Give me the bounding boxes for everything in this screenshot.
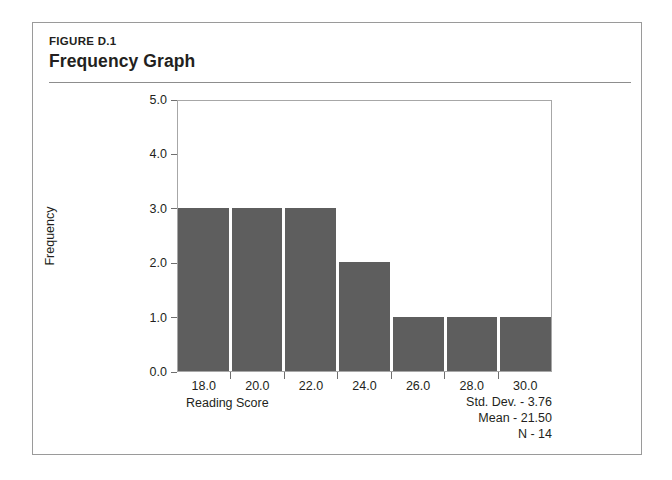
y-axis-tick-label: 4.0 (150, 147, 171, 161)
y-axis-tick-label: 0.0 (150, 365, 171, 379)
x-axis-tick-marks (177, 372, 552, 379)
bar (339, 262, 390, 371)
sample-size-value: N - 14 (466, 426, 552, 442)
y-axis-tick-label: 5.0 (150, 93, 171, 107)
bar (393, 317, 444, 371)
bar (447, 317, 498, 371)
x-axis-title: Reading Score (186, 396, 269, 410)
bar-slot (339, 101, 393, 371)
x-axis-tick-mark (391, 372, 445, 379)
bar (500, 317, 551, 371)
bar-slot (232, 101, 286, 371)
x-axis-tick-mark (284, 372, 338, 379)
x-axis-tick-mark (445, 372, 499, 379)
y-axis-tick-label: 2.0 (150, 256, 171, 270)
figure-container: FIGURE D.1 Frequency Graph Frequency 0.0… (32, 22, 642, 455)
y-axis-tick-label: 3.0 (150, 201, 171, 215)
x-axis-tick-label: 20.0 (231, 379, 285, 393)
x-axis-tick-label: 30.0 (498, 379, 552, 393)
bar (285, 208, 336, 371)
x-axis-tick-mark (231, 372, 285, 379)
x-axis-tick-label: 24.0 (338, 379, 392, 393)
y-axis-tick-label: 1.0 (150, 310, 171, 324)
chart-area: Frequency 0.01.02.03.04.05.0 18.020.022.… (33, 23, 643, 456)
bar-slot (178, 101, 232, 371)
x-axis-tick-label: 18.0 (177, 379, 231, 393)
bar-slot (393, 101, 447, 371)
x-axis-tick-label: 28.0 (445, 379, 499, 393)
x-axis-tick-mark (498, 372, 552, 379)
mean-value: Mean - 21.50 (466, 410, 552, 426)
x-axis-tick-mark (177, 372, 231, 379)
bar (178, 208, 229, 371)
bar (232, 208, 283, 371)
x-axis-tick-labels: 18.020.022.024.026.028.030.0 (177, 379, 552, 393)
std-dev-value: Std. Dev. - 3.76 (466, 394, 552, 410)
x-axis-tick-label: 26.0 (391, 379, 445, 393)
x-axis-tick-label: 22.0 (284, 379, 338, 393)
statistics-block: Std. Dev. - 3.76 Mean - 21.50 N - 14 (466, 394, 552, 442)
y-axis-ticks: 0.01.02.03.04.05.0 (33, 100, 177, 372)
bar-series (178, 101, 551, 371)
bar-slot (447, 101, 501, 371)
bar-slot (500, 101, 551, 371)
plot-frame (177, 100, 552, 372)
bar-slot (285, 101, 339, 371)
x-axis-tick-mark (338, 372, 392, 379)
